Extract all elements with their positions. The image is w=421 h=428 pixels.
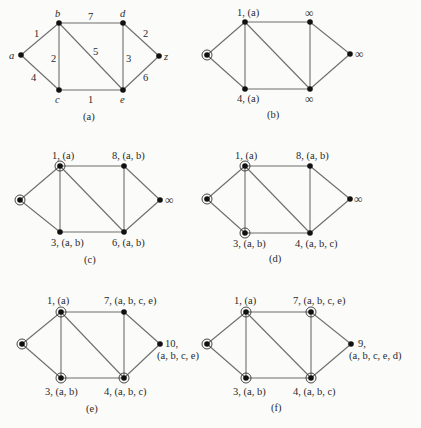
nodes: [18, 20, 162, 93]
label-z-dist: 9,: [358, 338, 366, 349]
weight-a-c: 4: [31, 72, 37, 83]
node-e-name: e: [120, 94, 125, 105]
label-c: 3, (a, b): [51, 237, 84, 249]
caption-b: (b): [267, 109, 280, 121]
node-c: [242, 86, 248, 92]
caption-a: (a): [83, 111, 95, 123]
node-z: [157, 197, 163, 203]
label-e: 4, (a, b, c): [295, 238, 338, 250]
weight-d-z: 2: [143, 28, 148, 39]
node-c: [57, 229, 63, 235]
node-b: [242, 19, 248, 25]
edges: [21, 23, 159, 90]
node-c-name: c: [55, 94, 60, 105]
node-e: [307, 86, 313, 92]
node-e: [307, 230, 313, 236]
node-c: [242, 230, 248, 236]
panel-c: 1, (a) 3, (a, b) 8, (a, b) 6, (a, b) ∞ (…: [15, 150, 174, 266]
label-e: ∞: [305, 92, 314, 106]
panel-d: 1, (a) 3, (a, b) 8, (a, b) 4, (a, b, c) …: [202, 150, 363, 265]
node-c: [56, 87, 62, 93]
node-d-name: d: [120, 8, 126, 19]
panel-e: 1, (a) 3, (a, b) 7, (a, b, c, e) 4, (a, …: [17, 295, 199, 415]
node-e: [120, 87, 126, 93]
caption-c: (c): [84, 254, 96, 266]
caption-f: (f): [271, 402, 282, 414]
panel-a: a b c d e z 1 4 2 7 5 1 3 2 6 (a): [9, 8, 168, 123]
label-d: 7, (a, b, c, e): [104, 295, 157, 307]
node-b: [242, 163, 248, 169]
label-e: 6, (a, b): [112, 237, 145, 249]
label-d: 7, (a, b, c, e): [293, 295, 346, 307]
label-b: 1, (a): [235, 150, 258, 162]
node-d: [308, 309, 314, 315]
node-z: [156, 53, 162, 59]
node-b: [56, 20, 62, 26]
node-d: [120, 20, 126, 26]
label-e: 4, (a, b, c): [293, 386, 336, 398]
node-a-name: a: [9, 50, 14, 61]
label-b: 1, (a): [234, 295, 257, 307]
node-b: [58, 309, 64, 315]
label-c: 3, (a, b): [45, 386, 78, 398]
caption-e: (e): [86, 403, 98, 415]
weight-e-z: 6: [143, 72, 148, 83]
node-z: [347, 51, 353, 57]
label-c: 4, (a): [237, 93, 260, 105]
dijkstra-figure: a b c d e z 1 4 2 7 5 1 3 2 6 (a) 1, (a): [0, 0, 421, 428]
edge-a-b: [21, 23, 59, 55]
label-d: ∞: [305, 6, 314, 20]
node-a: [18, 52, 24, 58]
node-e: [121, 229, 127, 235]
label-d: 8, (a, b): [296, 150, 329, 162]
weight-b-c: 2: [51, 53, 56, 64]
node-z: [348, 341, 354, 347]
label-b: 1, (a): [52, 150, 75, 162]
node-b: [57, 163, 63, 169]
label-b: 1, (a): [47, 295, 70, 307]
panel-f: 1, (a) 3, (a, b) 7, (a, b, c, e) 4, (a, …: [202, 295, 402, 414]
node-a: [204, 196, 210, 202]
node-d: [307, 19, 313, 25]
node-z-name: z: [163, 51, 168, 62]
node-a: [19, 341, 25, 347]
label-d: 8, (a, b): [112, 150, 145, 162]
label-b: 1, (a): [237, 7, 260, 19]
node-a: [17, 197, 23, 203]
weight-a-b: 1: [34, 28, 39, 39]
label-e: 4, (a, b, c): [104, 386, 147, 398]
weight-b-d: 7: [88, 11, 93, 22]
label-c: 3, (a, b): [233, 238, 266, 250]
label-z: ∞: [165, 193, 174, 207]
node-b-name: b: [55, 8, 60, 19]
label-c: 3, (a, b): [233, 386, 266, 398]
node-z: [157, 341, 163, 347]
weight-b-e: 5: [93, 46, 98, 57]
label-z-path: (a, b, c, e): [157, 350, 199, 362]
node-d: [121, 163, 127, 169]
weight-c-e: 1: [88, 94, 93, 105]
label-z: ∞: [355, 47, 364, 61]
node-d: [121, 309, 127, 315]
node-b: [243, 309, 249, 315]
label-z: ∞: [354, 192, 363, 206]
label-z-path: (a, b, c, e, d): [349, 350, 402, 362]
node-c: [243, 375, 249, 381]
weight-d-e: 3: [126, 53, 131, 64]
panel-b: 1, (a) 4, (a) ∞ ∞ ∞ (b): [202, 6, 364, 121]
edge-b-e: [59, 23, 123, 90]
label-z-dist: 10,: [165, 338, 178, 349]
node-e: [121, 375, 127, 381]
node-c: [58, 375, 64, 381]
node-a: [204, 341, 210, 347]
node-e: [308, 375, 314, 381]
node-z: [347, 196, 353, 202]
node-d: [307, 163, 313, 169]
edge-d-z: [123, 23, 159, 56]
node-a: [204, 52, 210, 58]
caption-d: (d): [269, 253, 282, 265]
